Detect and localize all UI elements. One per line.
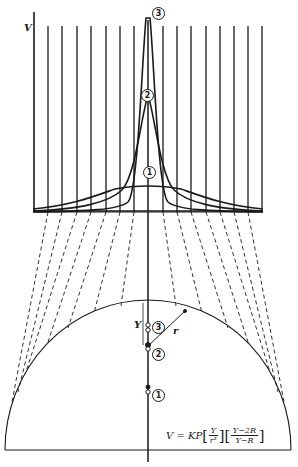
marker-3-label: 3 <box>152 321 165 334</box>
electrode-lines <box>48 26 262 212</box>
curve-3-label: 3 <box>152 7 165 20</box>
potential-diagram <box>0 0 298 467</box>
fraction-2: Y−2R Y−R <box>231 426 258 445</box>
fraction-1: Y r³ <box>209 426 218 445</box>
curve-1-label: 1 <box>143 166 156 179</box>
formula: V = KP [ Y r³ ] [ Y−2R Y−R ] <box>166 426 264 445</box>
fraction-2-denominator: Y−R <box>235 436 253 445</box>
distance-label: Y <box>134 319 141 330</box>
bracket-open-2: [ <box>224 428 229 444</box>
bracket-close-2: ] <box>259 428 264 444</box>
bracket-open-1: [ <box>202 428 207 444</box>
marker-1-label: 1 <box>152 389 165 402</box>
formula-lhs: V = KP <box>166 430 202 441</box>
marker-2-label: 2 <box>152 348 165 361</box>
v-axis-label: V <box>24 22 32 33</box>
radius-label: r <box>173 325 178 336</box>
curve-2-label: 2 <box>141 89 154 102</box>
fraction-1-denominator: r³ <box>210 436 217 445</box>
fraction-2-numerator: Y−2R <box>231 426 258 436</box>
fraction-1-numerator: Y <box>209 426 218 436</box>
